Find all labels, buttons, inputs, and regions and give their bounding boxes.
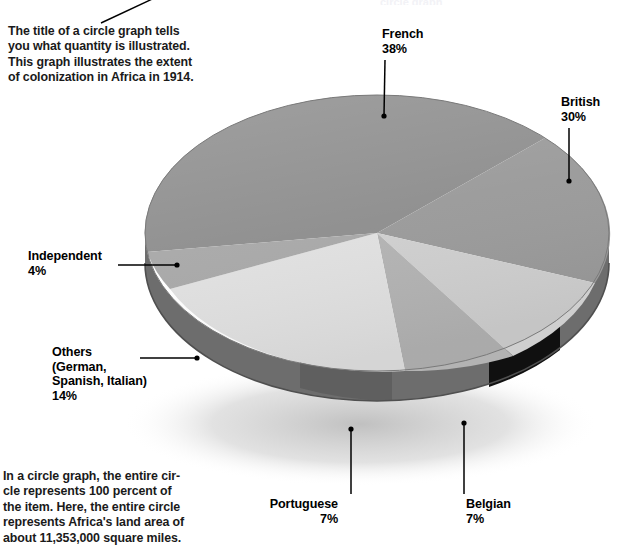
callout-label-independent: Independent 4% [28, 249, 102, 278]
anchor-dot-british [566, 178, 571, 183]
callout-label-french: French 38% [382, 27, 423, 56]
disc-top-sheen [145, 95, 609, 371]
callout-label-belgian: Belgian 7% [466, 497, 511, 526]
anchor-dot-independent [174, 262, 179, 267]
note-whole-explanation: In a circle graph, the entire cir- cle r… [3, 469, 218, 546]
anchor-dot-belgian [461, 420, 466, 425]
anchor-dot-portuguese [348, 426, 353, 431]
callout-label-portuguese: Portuguese 7% [198, 497, 338, 526]
anchor-dot-others [194, 355, 199, 360]
callout-label-british: British 30% [561, 95, 600, 124]
note-title-explanation: The title of a circle graph tells you wh… [8, 24, 218, 86]
leader-line-french [384, 60, 385, 115]
anchor-dot-french [381, 113, 386, 118]
callout-label-others: Others (German, Spanish, Italian) 14% [52, 345, 147, 403]
